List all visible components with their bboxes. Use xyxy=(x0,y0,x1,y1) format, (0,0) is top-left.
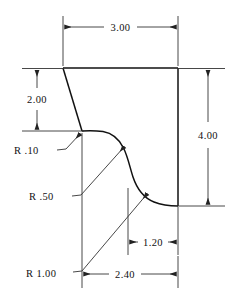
dimension-width-inner: 1.20 xyxy=(128,188,178,255)
radius-callout-medium: R .50 xyxy=(29,147,124,202)
profile-slant-edge xyxy=(63,68,82,131)
drawing-svg: 3.00 2.00 4.00 1.20 xyxy=(0,0,234,303)
part-profile-outline xyxy=(63,68,178,206)
dimension-label-3-00: 3.00 xyxy=(111,22,131,33)
dimension-width-top: 3.00 xyxy=(63,16,178,66)
radius-callout-small: R .10 xyxy=(14,134,80,156)
dimension-label-2-00: 2.00 xyxy=(27,94,47,105)
dimension-width-bottom: 2.40 xyxy=(82,133,178,288)
dimension-label-2-40: 2.40 xyxy=(115,269,135,280)
radius-label-r-050: R .50 xyxy=(29,191,54,202)
dimension-height-right: 4.00 xyxy=(177,69,225,207)
technical-drawing-canvas: 3.00 2.00 4.00 1.20 xyxy=(0,0,234,303)
leader-line-r-010 xyxy=(57,134,80,150)
profile-s-curve xyxy=(82,131,178,206)
leader-line-r-100 xyxy=(73,194,147,272)
dimension-height-left: 2.00 xyxy=(22,69,84,132)
dimension-label-1-20: 1.20 xyxy=(143,237,163,248)
radius-callout-large: R 1.00 xyxy=(26,194,147,279)
radius-label-r-100: R 1.00 xyxy=(26,268,56,279)
leader-line-r-050 xyxy=(72,147,124,196)
radius-label-r-010: R .10 xyxy=(14,145,39,156)
dimension-label-4-00: 4.00 xyxy=(198,130,218,141)
